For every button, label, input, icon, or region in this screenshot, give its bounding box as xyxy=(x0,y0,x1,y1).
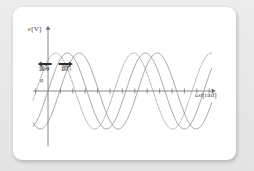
x-axis-label: ωt[rad] xyxy=(195,91,217,99)
y-axis-unit: [V] xyxy=(31,25,41,33)
lead-annotation-label: 進み xyxy=(39,64,49,72)
figure-card: e[V] ωt[rad] φ 進み 遅れ xyxy=(13,7,236,160)
y-axis-label: e[V] xyxy=(28,25,42,33)
page-background: e[V] ωt[rad] φ 進み 遅れ xyxy=(0,0,254,171)
lag-annotation-label: 遅れ xyxy=(61,64,71,72)
x-axis-unit: [rad] xyxy=(202,91,217,99)
phase-angle-label: φ xyxy=(40,77,43,83)
phase-waveform-chart xyxy=(13,7,236,160)
chart-axes xyxy=(33,26,216,147)
